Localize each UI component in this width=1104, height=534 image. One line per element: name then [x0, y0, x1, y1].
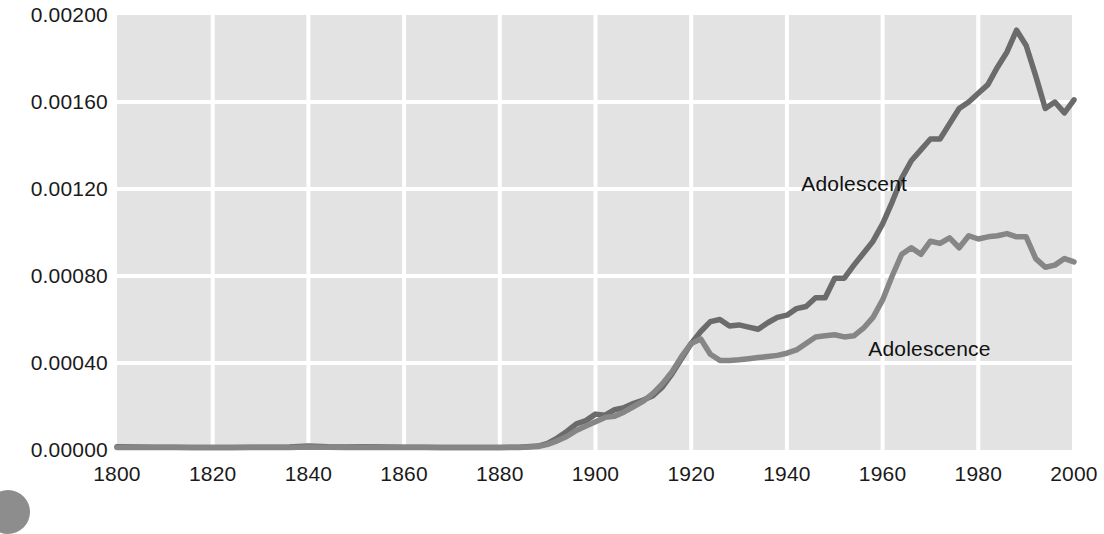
x-axis-tick-label: 1940	[763, 462, 811, 486]
x-axis-tick-label: 1880	[476, 462, 524, 486]
x-axis-tick-label: 1820	[189, 462, 237, 486]
x-axis-tick-label: 1860	[380, 462, 428, 486]
x-axis-tick-label: 1960	[859, 462, 907, 486]
x-axis-tick-label: 1840	[285, 462, 333, 486]
x-axis-tick-label: 2000	[1050, 462, 1098, 486]
series-label-adolescence: Adolescence	[868, 337, 990, 361]
x-axis-tick-label: 1920	[667, 462, 715, 486]
series-label-adolescent: Adolescent	[801, 172, 907, 196]
x-axis-tick-label: 1800	[93, 462, 141, 486]
x-axis-tick-label: 1980	[955, 462, 1003, 486]
x-axis-tick-label: 1900	[572, 462, 620, 486]
